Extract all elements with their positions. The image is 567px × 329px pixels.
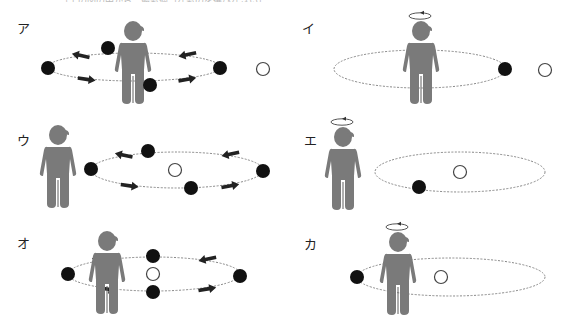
halo-arrow xyxy=(397,222,401,226)
halo-arrow xyxy=(420,11,424,15)
panel-label-a: ア xyxy=(17,18,30,37)
moon-dot xyxy=(146,285,160,299)
moon-dot xyxy=(498,62,512,76)
arrow-right-icon xyxy=(77,74,96,85)
open-circle xyxy=(169,164,182,177)
panel-u xyxy=(40,125,270,208)
person-head xyxy=(98,231,116,251)
arrow-right-icon xyxy=(120,180,139,191)
arrow-right-icon xyxy=(178,73,197,85)
arrow-left-icon xyxy=(114,149,133,162)
open-circle xyxy=(454,166,467,179)
moon-dot xyxy=(256,164,270,178)
person-icon xyxy=(115,21,151,104)
arrow-right-icon xyxy=(198,283,217,295)
moon-dot xyxy=(350,270,364,284)
panel-o xyxy=(61,231,247,314)
person-head xyxy=(389,232,407,252)
person-head xyxy=(412,21,430,41)
person-icon xyxy=(325,127,361,210)
moon-dot xyxy=(61,267,75,281)
moon-dot xyxy=(213,61,227,75)
panel-label-u: ウ xyxy=(17,130,30,149)
halo-arrow xyxy=(342,117,346,121)
person-icon xyxy=(403,21,439,104)
panel-i xyxy=(334,11,552,104)
panel-label-e: エ xyxy=(304,130,317,149)
panel-a xyxy=(41,21,270,104)
person-icon xyxy=(40,125,76,208)
moon-dot xyxy=(146,249,160,263)
panel-e xyxy=(325,117,545,210)
arrow-right-icon xyxy=(221,180,240,192)
arrow-left-icon xyxy=(71,49,90,62)
person-icon xyxy=(89,231,125,314)
open-circle xyxy=(539,64,552,77)
open-circle xyxy=(257,63,270,76)
person-head xyxy=(49,125,67,145)
diagram-canvas xyxy=(0,0,567,329)
person-icon xyxy=(380,232,416,315)
rotation-halo-icon xyxy=(409,11,431,19)
arrow-left-icon xyxy=(198,253,217,266)
open-circle xyxy=(147,268,160,281)
panel-label-i: イ xyxy=(302,18,315,37)
moon-dot xyxy=(184,181,198,195)
moon-dot xyxy=(84,162,98,176)
panel-label-ka: カ xyxy=(304,234,317,253)
panel-label-o: オ xyxy=(17,233,30,252)
arrow-left-icon xyxy=(178,48,197,61)
moon-dot xyxy=(412,180,426,194)
moon-dot xyxy=(143,78,157,92)
moon-dot xyxy=(141,144,155,158)
moon-dot xyxy=(233,269,247,283)
moon-dot xyxy=(41,61,55,75)
person-head xyxy=(124,21,142,41)
moon-dot xyxy=(101,41,115,55)
rotation-halo-icon xyxy=(386,222,408,230)
person-head xyxy=(334,127,352,147)
panel-ka xyxy=(350,222,545,315)
arrow-left-icon xyxy=(221,148,240,161)
open-circle xyxy=(435,271,448,284)
rotation-halo-icon xyxy=(331,117,353,125)
